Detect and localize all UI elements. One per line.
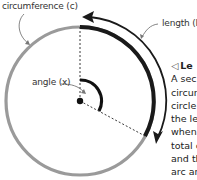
length-arrow-arc	[90, 17, 166, 137]
side-line: A sec	[171, 72, 197, 85]
side-heading: ◁Le	[171, 59, 197, 72]
side-line: circur	[171, 86, 197, 99]
side-line: when	[171, 125, 197, 138]
side-heading-text: Le	[180, 60, 193, 71]
side-line: arc ar	[171, 165, 197, 178]
arrowhead-down-icon	[153, 131, 163, 144]
side-line: circle	[171, 99, 197, 112]
circumference-pointer	[19, 14, 29, 44]
circumference-label: circumference (c)	[2, 2, 78, 11]
side-description: ◁Le A sec circur circle the le when tota…	[171, 59, 197, 179]
side-line: and th	[171, 152, 197, 165]
side-line: the le	[171, 112, 197, 125]
length-label: length (l)	[162, 19, 197, 28]
angle-label: angle (x)	[32, 78, 70, 87]
length-pointer	[142, 24, 158, 37]
side-line: total c	[171, 139, 197, 152]
radius-dashed-diagonal	[80, 101, 145, 136]
center-dot	[77, 98, 83, 104]
triangle-marker-icon: ◁	[171, 60, 178, 71]
